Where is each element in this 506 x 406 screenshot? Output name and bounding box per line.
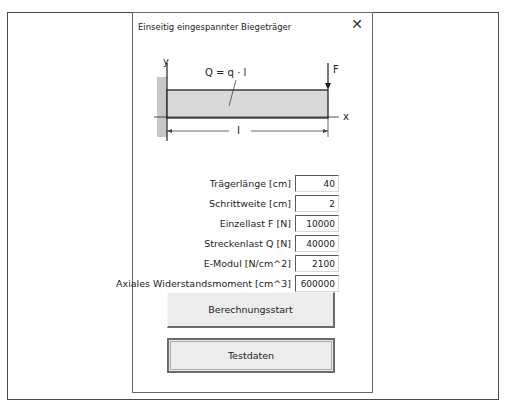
start-calculation-button[interactable]: Berechnungsstart: [167, 292, 335, 328]
step-size-label: Schrittweite [cm]: [209, 198, 291, 209]
dimension-arrow-left: [167, 129, 172, 133]
field-row-e-modulus: E-Modul [N/cm^2]: [133, 255, 374, 275]
beam-dialog: Einseitig eingespannter Biegeträger ✕ y: [132, 12, 373, 393]
force-arrow-head: [325, 83, 331, 90]
length-label: l: [237, 124, 240, 137]
load-label: Q = q · l: [205, 67, 246, 78]
field-row-step-size: Schrittweite [cm]: [133, 195, 374, 215]
field-row-beam-length: Trägerlänge [cm]: [133, 175, 374, 195]
fixed-support-wall: [157, 77, 167, 137]
e-modulus-input[interactable]: [295, 255, 339, 272]
field-row-distributed-load: Streckenlast Q [N]: [133, 235, 374, 255]
point-load-label: Einzellast F [N]: [220, 218, 291, 229]
section-modulus-label: Axiales Widerstandsmoment [cm^3]: [116, 278, 291, 289]
distributed-load-input[interactable]: [295, 235, 339, 252]
beam-diagram-svg: y x F l Q = q · l: [133, 13, 374, 153]
beam-body: [167, 90, 328, 118]
force-label: F: [333, 64, 339, 75]
section-modulus-input[interactable]: [295, 275, 339, 292]
cantilever-beam-diagram: y x F l Q = q · l: [133, 13, 374, 153]
field-row-point-load: Einzellast F [N]: [133, 215, 374, 235]
x-axis-label: x: [343, 111, 349, 122]
distributed-load-label: Streckenlast Q [N]: [204, 238, 291, 249]
beam-length-label: Trägerlänge [cm]: [210, 178, 291, 189]
beam-length-input[interactable]: [295, 175, 339, 192]
y-axis-label: y: [163, 56, 169, 67]
e-modulus-label: E-Modul [N/cm^2]: [204, 258, 291, 269]
step-size-input[interactable]: [295, 195, 339, 212]
dimension-arrow-right: [323, 129, 328, 133]
point-load-input[interactable]: [295, 215, 339, 232]
test-data-button[interactable]: Testdaten: [167, 338, 335, 373]
